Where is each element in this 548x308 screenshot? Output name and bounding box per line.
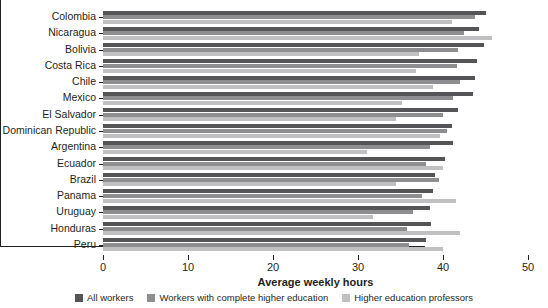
bar bbox=[103, 117, 396, 121]
bar bbox=[103, 231, 460, 235]
bar bbox=[103, 145, 430, 149]
category-label-honduras: Honduras bbox=[50, 223, 96, 234]
bar bbox=[103, 206, 430, 210]
x-axis-tick bbox=[528, 255, 529, 260]
bar bbox=[103, 15, 475, 19]
y-axis-line bbox=[0, 0, 1, 246]
category-label-dominican-republic: Dominican Republic bbox=[3, 125, 96, 136]
x-axis-tick bbox=[188, 255, 189, 260]
bar bbox=[103, 64, 457, 68]
bar bbox=[103, 141, 453, 145]
bar bbox=[103, 243, 409, 247]
bar bbox=[103, 113, 443, 117]
bar bbox=[103, 31, 464, 35]
bar bbox=[103, 92, 473, 96]
bar bbox=[103, 20, 452, 24]
bar bbox=[103, 59, 477, 63]
x-axis-tick-label: 40 bbox=[437, 261, 449, 273]
bar bbox=[103, 134, 440, 138]
category-label-bolivia: Bolivia bbox=[65, 44, 96, 55]
legend-label: Higher education professors bbox=[354, 292, 473, 303]
bar bbox=[103, 173, 435, 177]
category-label-costa-rica: Costa Rica bbox=[45, 60, 96, 71]
x-axis-tick-label: 0 bbox=[100, 261, 106, 273]
legend-item: All workers bbox=[75, 292, 133, 303]
bar bbox=[103, 238, 426, 242]
category-label-peru: Peru bbox=[74, 239, 96, 250]
bar bbox=[103, 162, 426, 166]
bars-container bbox=[103, 9, 528, 253]
bar-chart: 01020304050 ColombiaNicaraguaBoliviaCost… bbox=[0, 0, 548, 308]
bar bbox=[103, 48, 458, 52]
x-axis-tick bbox=[358, 255, 359, 260]
bar bbox=[103, 199, 456, 203]
legend-item: Higher education professors bbox=[342, 292, 473, 303]
bar bbox=[103, 85, 433, 89]
category-label-brazil: Brazil bbox=[70, 174, 96, 185]
x-axis-tick bbox=[443, 255, 444, 260]
x-axis-tick-label: 50 bbox=[522, 261, 534, 273]
bar bbox=[103, 210, 413, 214]
legend-label: Workers with complete higher education bbox=[159, 292, 328, 303]
category-label-colombia: Colombia bbox=[52, 11, 96, 22]
bar bbox=[103, 189, 433, 193]
bar bbox=[103, 150, 367, 154]
x-axis-tick-label: 30 bbox=[352, 261, 364, 273]
x-axis-tick-label: 10 bbox=[182, 261, 194, 273]
bar bbox=[103, 178, 439, 182]
x-axis-tick-label: 20 bbox=[267, 261, 279, 273]
swatch-dark-icon bbox=[75, 294, 83, 302]
bar bbox=[103, 157, 445, 161]
legend-label: All workers bbox=[87, 292, 133, 303]
bar bbox=[103, 215, 373, 219]
bar bbox=[103, 36, 492, 40]
bar bbox=[103, 96, 453, 100]
x-axis-title: Average weekly hours bbox=[103, 276, 528, 288]
swatch-medium-icon bbox=[147, 294, 155, 302]
category-label-el-salvador: El Salvador bbox=[42, 109, 96, 120]
bar bbox=[103, 108, 458, 112]
bar bbox=[103, 76, 475, 80]
bar bbox=[103, 101, 402, 105]
x-axis-tick bbox=[103, 255, 104, 260]
bar bbox=[103, 52, 419, 56]
category-label-mexico: Mexico bbox=[63, 92, 96, 103]
bar bbox=[103, 222, 431, 226]
bar bbox=[103, 166, 443, 170]
category-label-uruguay: Uruguay bbox=[56, 206, 96, 217]
bar bbox=[103, 124, 452, 128]
bar bbox=[103, 182, 396, 186]
category-label-ecuador: Ecuador bbox=[57, 158, 96, 169]
legend-item: Workers with complete higher education bbox=[147, 292, 328, 303]
bar bbox=[103, 194, 422, 198]
x-axis-tick bbox=[273, 255, 274, 260]
bar bbox=[103, 43, 484, 47]
bar bbox=[103, 129, 447, 133]
swatch-light-icon bbox=[342, 294, 350, 302]
bar bbox=[103, 227, 407, 231]
chart-legend: All workersWorkers with complete higher … bbox=[0, 292, 548, 303]
bar bbox=[103, 247, 443, 251]
bar bbox=[103, 11, 486, 15]
bar bbox=[103, 80, 460, 84]
category-label-panama: Panama bbox=[57, 190, 96, 201]
bar bbox=[103, 69, 416, 73]
category-label-nicaragua: Nicaragua bbox=[48, 27, 96, 38]
category-label-argentina: Argentina bbox=[51, 141, 96, 152]
bar bbox=[103, 27, 479, 31]
category-label-chile: Chile bbox=[72, 76, 96, 87]
